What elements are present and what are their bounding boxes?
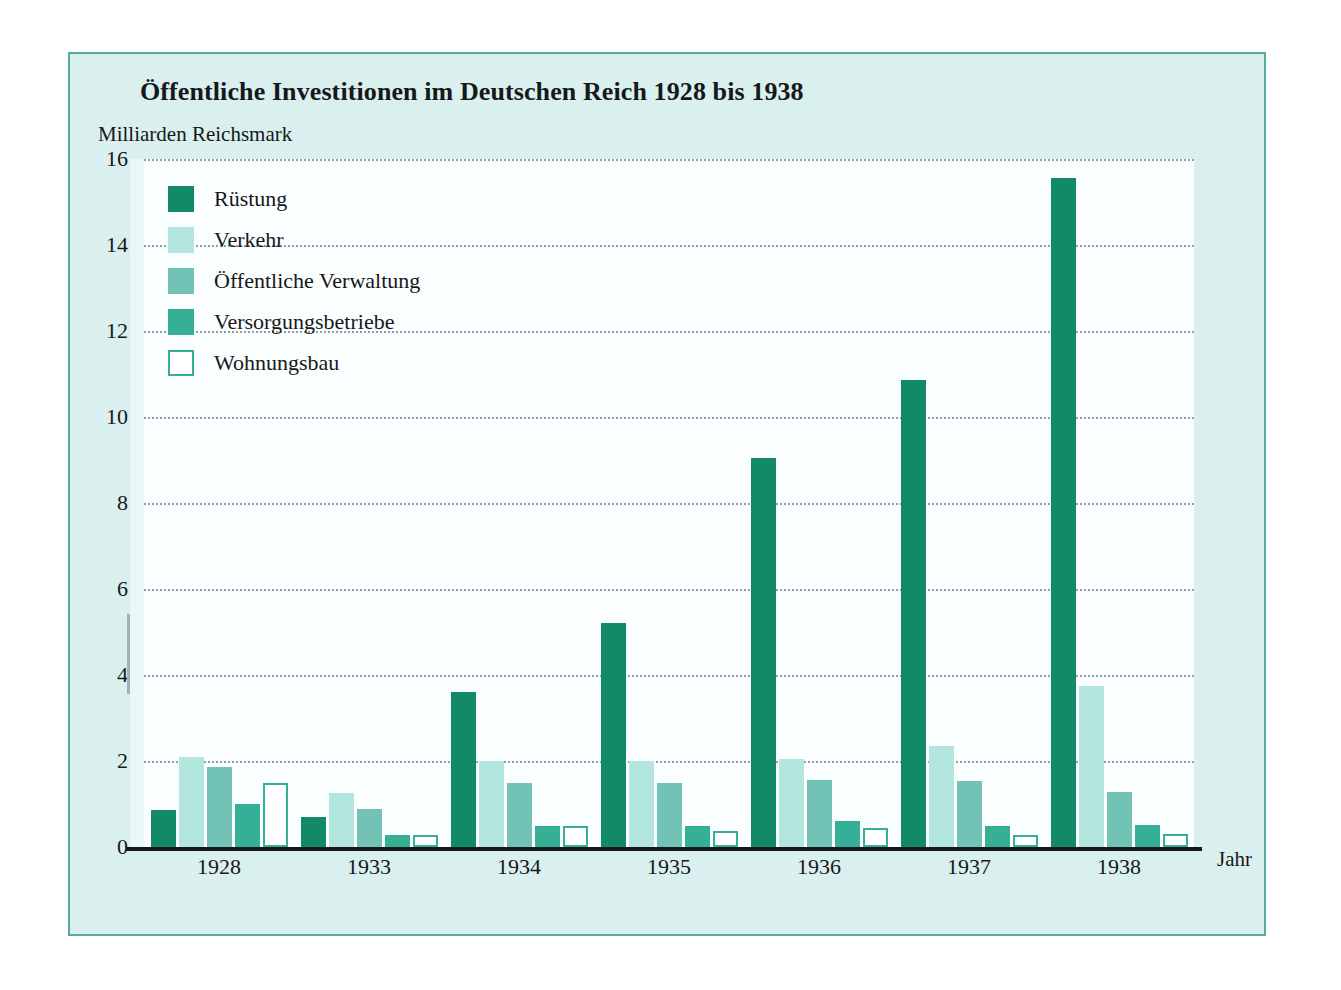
legend-swatch-icon xyxy=(168,186,194,212)
chart-page: Öffentliche Investitionen im Deutschen R… xyxy=(0,0,1341,990)
legend-swatch-icon xyxy=(168,309,194,335)
bar xyxy=(179,757,204,847)
x-tick-label: 1936 xyxy=(744,854,894,880)
y-axis-ticks: 0246810121416 xyxy=(70,159,128,847)
bar xyxy=(507,783,532,848)
y-tick-label: 12 xyxy=(84,318,128,344)
bar xyxy=(535,826,560,848)
bar xyxy=(385,835,410,847)
bar xyxy=(329,793,354,847)
gridline xyxy=(144,503,1194,505)
plot-left-margin xyxy=(130,159,144,847)
bar xyxy=(301,817,326,847)
legend-item[interactable]: Wohnungsbau xyxy=(168,342,420,383)
bar xyxy=(629,761,654,847)
gridline xyxy=(144,589,1194,591)
y-tick-label: 16 xyxy=(84,146,128,172)
bar xyxy=(685,826,710,847)
gridline xyxy=(144,159,1194,161)
x-tick-label: 1928 xyxy=(144,854,294,880)
legend-label: Rüstung xyxy=(214,186,287,212)
legend-label: Öffentliche Verwaltung xyxy=(214,268,420,294)
legend-item[interactable]: Verkehr xyxy=(168,219,420,260)
x-axis-title: Jahr xyxy=(1217,847,1252,872)
bar xyxy=(235,804,260,847)
bar xyxy=(207,767,232,847)
bar xyxy=(901,380,926,847)
y-tick-label: 0 xyxy=(84,834,128,860)
bar xyxy=(413,835,438,847)
bar xyxy=(1163,834,1188,847)
bar xyxy=(985,826,1010,848)
legend-item[interactable]: Versorgungsbetriebe xyxy=(168,301,420,342)
y-axis-title: Milliarden Reichsmark xyxy=(98,122,292,147)
bar xyxy=(957,781,982,847)
bar xyxy=(807,780,832,847)
chart-frame: Öffentliche Investitionen im Deutschen R… xyxy=(68,52,1266,936)
bar xyxy=(1079,686,1104,847)
bar xyxy=(151,810,176,847)
bar xyxy=(1135,825,1160,847)
x-tick-label: 1935 xyxy=(594,854,744,880)
bar xyxy=(1107,792,1132,847)
bar xyxy=(563,826,588,847)
y-tick-label: 10 xyxy=(84,404,128,430)
legend-label: Verkehr xyxy=(214,227,284,253)
legend-label: Versorgungsbetriebe xyxy=(214,309,394,335)
x-tick-label: 1937 xyxy=(894,854,1044,880)
legend-item[interactable]: Rüstung xyxy=(168,178,420,219)
legend-item[interactable]: Öffentliche Verwaltung xyxy=(168,260,420,301)
bar xyxy=(929,746,954,847)
bar xyxy=(863,828,888,847)
bar xyxy=(713,831,738,847)
bar xyxy=(451,692,476,847)
gridline xyxy=(144,761,1194,763)
chart-title: Öffentliche Investitionen im Deutschen R… xyxy=(140,77,804,107)
bar xyxy=(1013,835,1038,847)
bar xyxy=(779,759,804,847)
y-axis-stub xyxy=(127,614,130,694)
bar xyxy=(657,783,682,848)
chart-legend: RüstungVerkehrÖffentliche VerwaltungVers… xyxy=(168,178,420,383)
legend-label: Wohnungsbau xyxy=(214,350,339,376)
bar xyxy=(263,783,288,847)
bar xyxy=(479,761,504,847)
x-tick-label: 1934 xyxy=(444,854,594,880)
bar xyxy=(357,809,382,847)
y-tick-label: 2 xyxy=(84,748,128,774)
y-tick-label: 6 xyxy=(84,576,128,602)
legend-swatch-icon xyxy=(168,227,194,253)
x-axis-line xyxy=(126,847,1202,851)
y-tick-label: 14 xyxy=(84,232,128,258)
legend-swatch-icon xyxy=(168,268,194,294)
gridline xyxy=(144,417,1194,419)
bar xyxy=(751,458,776,847)
bar xyxy=(601,623,626,847)
bar xyxy=(835,821,860,847)
x-tick-label: 1938 xyxy=(1044,854,1194,880)
x-tick-label: 1933 xyxy=(294,854,444,880)
legend-swatch-icon xyxy=(168,350,194,376)
y-tick-label: 4 xyxy=(84,662,128,688)
gridline xyxy=(144,675,1194,677)
y-tick-label: 8 xyxy=(84,490,128,516)
bar xyxy=(1051,178,1076,847)
